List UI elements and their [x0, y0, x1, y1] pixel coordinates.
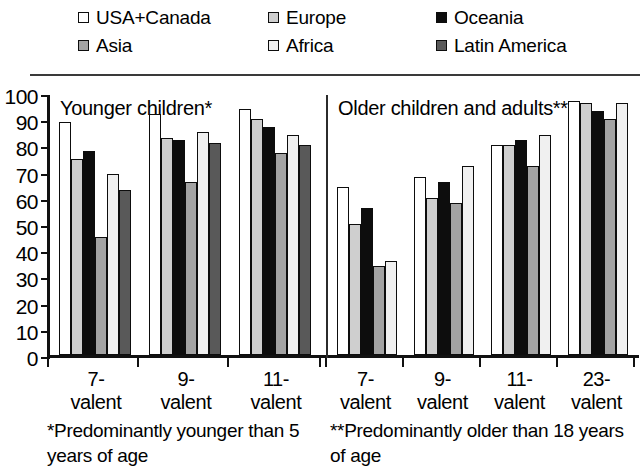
legend-swatch-icon [268, 40, 279, 51]
legend-divider [30, 74, 640, 76]
x-axis [47, 358, 639, 368]
bar [527, 166, 539, 355]
legend-item-europe: Europe [268, 8, 346, 27]
legend-label: Asia [96, 36, 132, 55]
y-axis-tick-label: 90 [16, 112, 38, 133]
bar [616, 103, 628, 355]
bar [373, 266, 385, 355]
y-axis-tick-label: 10 [16, 321, 38, 342]
y-axis-tick [41, 174, 50, 176]
y-axis-tick [41, 226, 50, 228]
y-axis-tick-label: 20 [16, 295, 38, 316]
y-axis-tick-label: 100 [4, 86, 38, 107]
x-axis-group-label-line1: 11- [228, 368, 324, 391]
bar [438, 182, 450, 355]
panel-divider [326, 95, 328, 358]
bar [287, 135, 299, 355]
x-axis-group-label: 23-valent [549, 368, 643, 414]
x-axis-group-label: 9-valent [138, 368, 234, 414]
bar [385, 261, 397, 355]
bar [361, 208, 373, 355]
x-axis-group-label-line1: 23- [549, 368, 643, 391]
bar [568, 101, 580, 355]
bar [450, 203, 462, 355]
bar [426, 198, 438, 355]
bar [539, 135, 551, 355]
footnote-older: **Predominantly older than 18 years of a… [330, 418, 630, 468]
x-axis-tick [479, 358, 481, 367]
bar [149, 114, 161, 355]
y-axis-tick-label: 0 [27, 348, 38, 369]
bar [462, 166, 474, 355]
x-axis-group-label-line2: valent [549, 391, 643, 414]
legend-label: Latin America [454, 36, 567, 55]
bar [239, 109, 251, 355]
x-axis-group-label-line2: valent [228, 391, 324, 414]
legend-swatch-icon [78, 12, 89, 23]
y-axis-tick-label: 70 [16, 164, 38, 185]
y-axis-tick [41, 147, 50, 149]
x-axis-group-label-line1: 9- [138, 368, 234, 391]
bar [161, 138, 173, 355]
y-axis-tick [41, 252, 50, 254]
x-axis-tick [325, 358, 327, 367]
y-axis-tick [41, 331, 50, 333]
legend-item-asia: Asia [78, 36, 132, 55]
legend-item-oceania: Oceania [436, 8, 523, 27]
x-axis-group-label-line1: 7- [48, 368, 144, 391]
legend-label: Europe [286, 8, 346, 27]
x-axis-tick [402, 358, 404, 367]
bar [263, 127, 275, 355]
bar [299, 145, 311, 355]
y-axis-tick-label: 50 [16, 217, 38, 238]
bar [580, 103, 592, 355]
legend-swatch-icon [268, 12, 279, 23]
y-axis-tick-label: 80 [16, 138, 38, 159]
y-axis-tick [41, 200, 50, 202]
chart-legend: USA+CanadaEuropeOceaniaAsiaAfricaLatin A… [78, 6, 638, 60]
bar [592, 111, 604, 355]
legend-item-usa-canada: USA+Canada [78, 8, 211, 27]
bar [83, 151, 95, 355]
y-axis-tick-label: 40 [16, 243, 38, 264]
legend-label: Oceania [454, 8, 523, 27]
y-axis-tick-label: 30 [16, 269, 38, 290]
bar [251, 119, 263, 355]
bar [173, 140, 185, 355]
legend-item-africa: Africa [268, 36, 333, 55]
x-axis-tick [319, 358, 321, 367]
plot-area: Younger children* Older children and adu… [47, 96, 639, 358]
x-axis-tick [47, 358, 49, 367]
x-axis-group-label-line2: valent [138, 391, 234, 414]
x-axis-tick [137, 358, 139, 367]
legend-item-latin-america: Latin America [436, 36, 567, 55]
bar [349, 224, 361, 355]
bar [337, 187, 349, 355]
bar [491, 145, 503, 355]
bar [503, 145, 515, 355]
bar [275, 153, 287, 355]
bar [604, 119, 616, 355]
y-axis-tick [41, 121, 50, 123]
x-axis-group-label: 7-valent [48, 368, 144, 414]
y-axis-tick [41, 95, 50, 97]
bar [185, 182, 197, 355]
bar [209, 143, 221, 355]
bar [95, 237, 107, 355]
legend-label: Africa [286, 36, 333, 55]
x-axis-tick [633, 358, 635, 367]
bar [414, 177, 426, 355]
x-axis-tick [556, 358, 558, 367]
y-axis-tick [41, 305, 50, 307]
panel-title-younger: Younger children* [60, 98, 212, 118]
bar [71, 159, 83, 356]
bar [107, 174, 119, 355]
legend-swatch-icon [436, 40, 447, 51]
bar-chart-figure: USA+CanadaEuropeOceaniaAsiaAfricaLatin A… [0, 0, 643, 476]
legend-swatch-icon [436, 12, 447, 23]
x-axis-group-label: 11-valent [228, 368, 324, 414]
bar [197, 132, 209, 355]
panel-title-older: Older children and adults** [338, 98, 568, 118]
legend-swatch-icon [78, 40, 89, 51]
bar [59, 122, 71, 355]
